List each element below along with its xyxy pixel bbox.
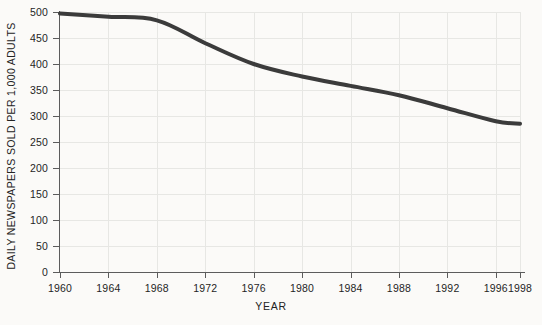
y-tick-mark	[53, 142, 60, 143]
y-tick-label: 300	[8, 111, 48, 122]
gridline-horizontal	[60, 168, 520, 169]
x-axis-line	[59, 272, 525, 273]
y-tick-mark	[53, 38, 60, 39]
y-tick-mark	[53, 194, 60, 195]
y-tick-mark	[53, 220, 60, 221]
gridline-horizontal	[60, 12, 520, 13]
gridline-vertical	[302, 12, 303, 272]
x-tick-mark	[351, 272, 352, 278]
gridline-vertical	[351, 12, 352, 272]
y-tick-label: 400	[8, 59, 48, 70]
gridline-horizontal	[60, 64, 520, 65]
gridline-vertical	[399, 12, 400, 272]
x-tick-label: 1998	[495, 282, 542, 294]
x-tick-mark	[254, 272, 255, 278]
gridline-vertical	[447, 12, 448, 272]
x-tick-label: 1972	[180, 282, 230, 294]
x-tick-mark	[496, 272, 497, 278]
y-tick-label: 500	[8, 7, 48, 18]
gridline-vertical	[254, 12, 255, 272]
x-tick-mark	[399, 272, 400, 278]
gridline-vertical	[157, 12, 158, 272]
y-tick-label: 250	[8, 137, 48, 148]
y-tick-mark	[53, 168, 60, 169]
y-tick-mark	[53, 64, 60, 65]
y-tick-label: 200	[8, 163, 48, 174]
x-tick-label: 1964	[83, 282, 133, 294]
x-tick-mark	[108, 272, 109, 278]
gridline-horizontal	[60, 220, 520, 221]
gridline-horizontal	[60, 90, 520, 91]
x-tick-mark	[60, 272, 61, 278]
gridline-horizontal	[60, 246, 520, 247]
y-tick-mark	[53, 90, 60, 91]
gridline-vertical	[520, 12, 521, 272]
x-tick-mark	[157, 272, 158, 278]
x-tick-label: 1960	[35, 282, 85, 294]
x-tick-label: 1980	[277, 282, 327, 294]
y-tick-label: 0	[8, 267, 48, 278]
gridline-horizontal	[60, 142, 520, 143]
x-tick-mark	[520, 272, 521, 278]
y-tick-label: 350	[8, 85, 48, 96]
x-tick-mark	[302, 272, 303, 278]
gridline-horizontal	[60, 116, 520, 117]
y-tick-label: 150	[8, 189, 48, 200]
chart-figure: DAILY NEWSPAPERS SOLD PER 1,000 ADULTS Y…	[0, 0, 542, 325]
x-axis-title: YEAR	[0, 300, 542, 312]
gridline-horizontal	[60, 38, 520, 39]
x-tick-label: 1976	[229, 282, 279, 294]
y-tick-mark	[53, 116, 60, 117]
y-tick-mark	[53, 246, 60, 247]
x-tick-label: 1968	[132, 282, 182, 294]
gridline-vertical	[108, 12, 109, 272]
y-tick-label: 450	[8, 33, 48, 44]
x-tick-label: 1988	[374, 282, 424, 294]
y-tick-label: 100	[8, 215, 48, 226]
gridline-vertical	[205, 12, 206, 272]
x-tick-label: 1984	[326, 282, 376, 294]
y-tick-label: 50	[8, 241, 48, 252]
plot-area	[60, 12, 520, 272]
gridline-vertical	[496, 12, 497, 272]
x-tick-label: 1992	[422, 282, 472, 294]
y-tick-mark	[53, 272, 60, 273]
x-tick-mark	[205, 272, 206, 278]
gridline-horizontal	[60, 194, 520, 195]
x-tick-mark	[447, 272, 448, 278]
y-tick-mark	[53, 12, 60, 13]
